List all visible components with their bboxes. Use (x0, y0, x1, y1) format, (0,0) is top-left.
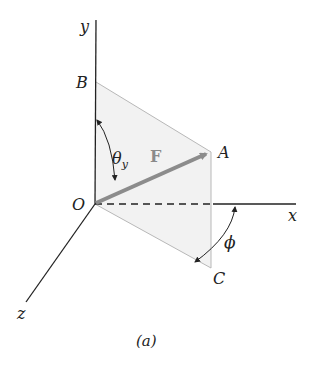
point-b-label: B (75, 73, 88, 92)
z-axis (26, 204, 95, 302)
point-o-label: O (72, 195, 85, 214)
force-vector-diagram: y x z B O A C F θy ϕ (a) (0, 0, 318, 371)
plane-obac (95, 82, 211, 268)
point-c-label: C (213, 269, 225, 288)
figure-caption: (a) (136, 332, 157, 350)
point-a-label: A (216, 143, 230, 162)
force-label: F (150, 147, 162, 166)
x-axis-label: x (288, 206, 297, 225)
phi-label: ϕ (224, 232, 236, 252)
z-axis-label: z (16, 304, 26, 323)
y-axis-label: y (79, 17, 90, 36)
